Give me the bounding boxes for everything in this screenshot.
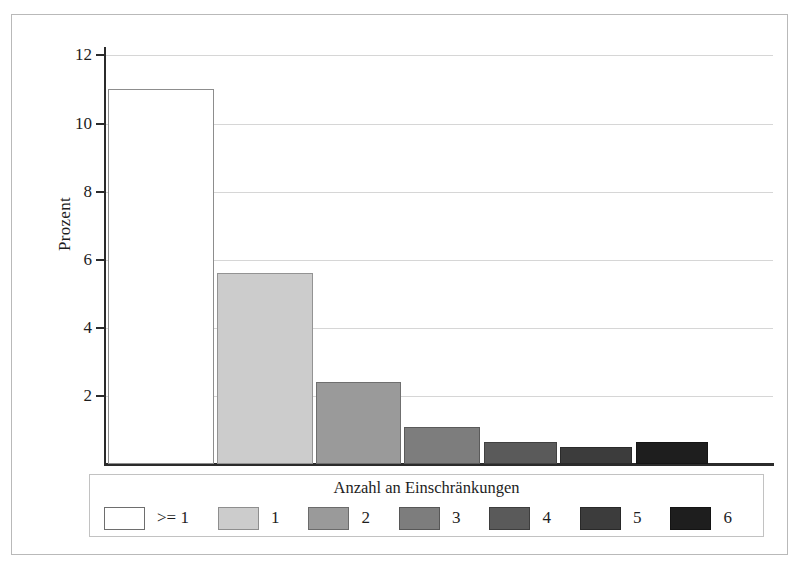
legend-swatch-icon	[218, 507, 259, 530]
legend-item-label: 4	[542, 508, 551, 528]
y-tick-label-wrap: 12	[48, 55, 92, 56]
legend-item-label: 5	[633, 508, 642, 528]
bar-1	[108, 89, 214, 464]
legend-item-label: 2	[361, 508, 370, 528]
legend-item: 4	[489, 507, 551, 530]
bar-chart-figure: Prozent 12108642 Anzahl an Einschränkung…	[0, 0, 799, 577]
y-tick-label: 4	[52, 319, 92, 336]
legend-items: >= 1123456	[104, 503, 757, 533]
y-tick-label: 8	[52, 183, 92, 200]
legend-item-label: >= 1	[157, 508, 189, 528]
bar-4	[404, 427, 480, 464]
legend-title: Anzahl an Einschränkungen	[90, 478, 763, 498]
y-tick-label-wrap: 10	[48, 124, 92, 125]
y-tick-label: 6	[52, 251, 92, 268]
legend-item: 5	[580, 507, 642, 530]
y-axis-title: Prozent	[55, 154, 75, 294]
y-tick-label-wrap: 2	[48, 396, 92, 397]
legend-item-label: 6	[723, 508, 732, 528]
legend-item: 6	[670, 507, 732, 530]
y-tick-label-wrap: 4	[48, 328, 92, 329]
legend-swatch-icon	[104, 507, 145, 530]
bar-5	[484, 442, 557, 464]
y-tick-label: 2	[52, 387, 92, 404]
legend: Anzahl an Einschränkungen >= 1123456	[89, 474, 764, 537]
bar-6	[560, 447, 632, 464]
bar-series	[104, 47, 773, 464]
legend-swatch-icon	[670, 507, 711, 530]
legend-item: 1	[218, 507, 280, 530]
y-tick-label: 12	[52, 46, 92, 63]
legend-swatch-icon	[580, 507, 621, 530]
legend-swatch-icon	[308, 507, 349, 530]
legend-swatch-icon	[489, 507, 530, 530]
y-tick-label-wrap: 6	[48, 260, 92, 261]
y-tick-label-wrap: 8	[48, 192, 92, 193]
legend-item: 3	[399, 507, 461, 530]
bar-2	[217, 273, 313, 464]
legend-item: 2	[308, 507, 370, 530]
legend-swatch-icon	[399, 507, 440, 530]
bar-7	[636, 442, 708, 464]
legend-item-label: 1	[271, 508, 280, 528]
legend-item: >= 1	[104, 507, 189, 530]
bar-3	[316, 382, 401, 464]
y-tick-label: 10	[52, 115, 92, 132]
legend-item-label: 3	[452, 508, 461, 528]
